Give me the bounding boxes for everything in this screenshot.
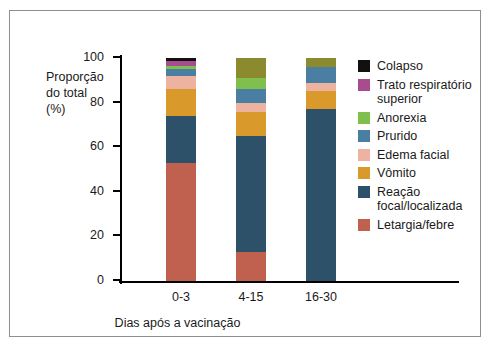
x-axis-tick-label: 16-30 xyxy=(305,290,337,304)
bar-segment[interactable] xyxy=(306,58,336,67)
bar-segment[interactable] xyxy=(306,91,336,109)
x-axis-line xyxy=(119,281,459,283)
bar-segment[interactable] xyxy=(306,83,336,92)
y-axis-tick: 100 xyxy=(113,56,120,58)
legend-color-swatch xyxy=(358,130,370,142)
y-axis-line xyxy=(120,55,122,284)
legend-item[interactable]: Trato respiratório superior xyxy=(358,78,492,107)
legend-color-swatch xyxy=(358,186,370,198)
y-axis-tick-label: 100 xyxy=(83,50,104,64)
legend-item[interactable]: Colapso xyxy=(358,59,492,74)
legend-color-swatch xyxy=(358,79,370,91)
x-axis-tick-label: 0-3 xyxy=(172,290,190,304)
bar-segment[interactable] xyxy=(236,103,266,112)
legend-label: Edema facial xyxy=(377,148,449,163)
bar-segment[interactable] xyxy=(166,163,196,281)
bar-segment[interactable] xyxy=(166,61,196,65)
bar-segment[interactable] xyxy=(236,89,266,102)
legend-color-swatch xyxy=(358,112,370,124)
bar-segment[interactable] xyxy=(236,58,266,78)
bar-segment[interactable] xyxy=(166,76,196,89)
chart-legend: ColapsoTrato respiratório superiorAnorex… xyxy=(358,59,492,236)
bar-segment[interactable] xyxy=(166,58,196,61)
legend-label: Trato respiratório superior xyxy=(377,78,492,107)
legend-color-swatch xyxy=(358,60,370,72)
legend-item[interactable]: Anorexia xyxy=(358,111,492,126)
y-axis-tick: 0 xyxy=(113,279,120,281)
stacked-bar[interactable] xyxy=(166,58,196,281)
bar-segment[interactable] xyxy=(236,252,266,281)
legend-label: Anorexia xyxy=(377,111,426,126)
y-axis-tick-label: 60 xyxy=(90,139,104,153)
bar-segment[interactable] xyxy=(166,116,196,163)
legend-color-swatch xyxy=(358,149,370,161)
legend-color-swatch xyxy=(358,167,370,179)
bar-segment[interactable] xyxy=(236,136,266,252)
bar-segment[interactable] xyxy=(236,112,266,137)
legend-item[interactable]: Vômito xyxy=(358,166,492,181)
x-axis-title: Dias após a vacinação xyxy=(10,316,345,330)
legend-label: Colapso xyxy=(377,59,423,74)
bar-segment[interactable] xyxy=(166,89,196,116)
y-axis-tick: 80 xyxy=(113,101,120,103)
stacked-bar[interactable] xyxy=(306,58,336,281)
bar-segment[interactable] xyxy=(236,78,266,89)
legend-color-swatch xyxy=(358,219,370,231)
y-axis-tick: 60 xyxy=(113,145,120,147)
legend-label: Prurido xyxy=(377,129,417,144)
plot-area: 020406080100 0-34-1516-30 xyxy=(120,58,335,281)
legend-label: Vômito xyxy=(377,166,416,181)
y-axis-tick: 40 xyxy=(113,190,120,192)
y-axis-tick-label: 80 xyxy=(90,95,104,109)
y-axis-tick-label: 0 xyxy=(97,273,104,287)
x-axis-tick-label: 4-15 xyxy=(238,290,263,304)
y-axis-tick-label: 20 xyxy=(90,228,104,242)
stacked-bar[interactable] xyxy=(236,58,266,281)
y-axis-title-line-1: Proporção xyxy=(46,69,104,85)
legend-item[interactable]: Edema facial xyxy=(358,148,492,163)
legend-label: Reação focal/localizada xyxy=(377,185,492,214)
y-axis-tick-label: 40 xyxy=(90,184,104,198)
chart-figure-frame: Proporção do total (%) 020406080100 0-34… xyxy=(9,10,481,337)
bar-segment[interactable] xyxy=(166,69,196,76)
legend-item[interactable]: Prurido xyxy=(358,129,492,144)
y-axis-tick: 20 xyxy=(113,234,120,236)
legend-item[interactable]: Reação focal/localizada xyxy=(358,185,492,214)
bar-segment[interactable] xyxy=(306,67,336,83)
bar-segment[interactable] xyxy=(166,66,196,69)
legend-label: Letargia/febre xyxy=(377,218,454,233)
bar-segment[interactable] xyxy=(306,109,336,281)
legend-item[interactable]: Letargia/febre xyxy=(358,218,492,233)
y-axis-title: Proporção do total (%) xyxy=(46,69,104,117)
